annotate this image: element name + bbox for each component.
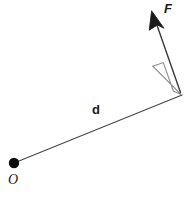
force-label: F: [164, 2, 172, 15]
force-arrowhead-icon: [149, 11, 164, 30]
origin-pivot-dot-icon: [9, 158, 19, 168]
diagram-canvas: [0, 0, 187, 198]
right-angle-marker-icon: [153, 63, 181, 95]
distance-label: d: [92, 103, 100, 116]
physics-diagram: F d O: [0, 0, 187, 198]
origin-label: O: [8, 173, 18, 187]
